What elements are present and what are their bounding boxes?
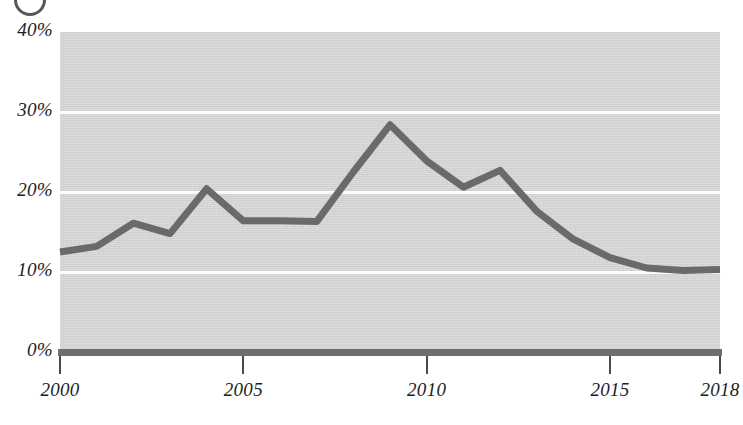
- series-line-layer: [0, 0, 743, 425]
- line-chart-figure: 0%10%20%30%40% 20002005201020152018: [0, 0, 743, 425]
- series-line-share: [60, 125, 720, 271]
